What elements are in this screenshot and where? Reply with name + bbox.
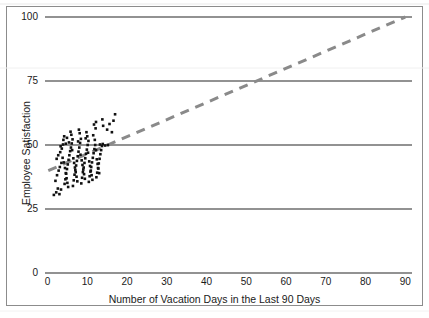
data-point bbox=[63, 183, 66, 186]
data-point bbox=[88, 175, 91, 178]
data-point bbox=[95, 158, 98, 161]
data-point bbox=[64, 142, 67, 145]
x-axis-label: Number of Vacation Days in the Last 90 D… bbox=[0, 293, 429, 305]
data-point bbox=[94, 139, 97, 142]
data-point bbox=[77, 140, 80, 143]
x-tick-label: 20 bbox=[115, 277, 139, 287]
data-point bbox=[62, 143, 65, 146]
data-point bbox=[94, 127, 97, 130]
data-point bbox=[82, 166, 85, 169]
data-point bbox=[65, 172, 68, 175]
x-tick-label: 90 bbox=[393, 277, 417, 287]
x-tick-label: 40 bbox=[195, 277, 219, 287]
data-point bbox=[86, 144, 89, 147]
y-tick-label: 75 bbox=[8, 76, 38, 86]
data-point bbox=[55, 158, 58, 161]
data-point bbox=[87, 140, 90, 143]
data-point bbox=[107, 144, 110, 147]
data-point bbox=[59, 145, 62, 148]
data-point bbox=[55, 191, 58, 194]
data-point bbox=[78, 146, 81, 149]
data-point bbox=[72, 157, 75, 160]
x-tick-label: 50 bbox=[234, 277, 258, 287]
data-point bbox=[96, 171, 99, 174]
data-point bbox=[114, 113, 117, 116]
data-point bbox=[84, 157, 87, 160]
data-point bbox=[84, 177, 87, 180]
y-tick-label: 0 bbox=[8, 268, 38, 278]
data-point bbox=[87, 151, 90, 154]
data-point bbox=[67, 186, 70, 189]
data-point bbox=[60, 162, 63, 165]
data-point bbox=[79, 153, 82, 156]
data-point bbox=[71, 138, 74, 141]
data-point bbox=[70, 133, 73, 136]
data-point bbox=[101, 143, 104, 146]
data-point bbox=[86, 148, 89, 151]
data-point bbox=[59, 151, 62, 154]
data-point bbox=[57, 169, 60, 172]
data-point bbox=[112, 119, 115, 122]
data-point bbox=[99, 153, 102, 156]
data-point bbox=[95, 121, 98, 124]
y-axis-label: Employee Satisfaction bbox=[20, 101, 32, 205]
data-point bbox=[54, 180, 57, 183]
data-point bbox=[69, 130, 72, 133]
data-point bbox=[111, 131, 114, 134]
x-tick-label: 30 bbox=[155, 277, 179, 287]
data-point bbox=[91, 161, 94, 164]
x-tick-label: 10 bbox=[75, 277, 99, 287]
data-point bbox=[73, 173, 76, 176]
data-point bbox=[56, 174, 59, 177]
data-point bbox=[62, 161, 65, 164]
data-point bbox=[61, 147, 64, 150]
data-point bbox=[80, 159, 83, 162]
data-point bbox=[66, 163, 69, 166]
data-point bbox=[70, 142, 73, 145]
data-point bbox=[101, 118, 104, 121]
data-point bbox=[64, 178, 67, 181]
scatter-plot bbox=[0, 0, 429, 318]
y-gridlines bbox=[45, 17, 412, 209]
data-point bbox=[63, 135, 66, 138]
data-point bbox=[92, 152, 95, 155]
data-point bbox=[91, 179, 94, 182]
data-point bbox=[97, 162, 100, 165]
data-point bbox=[68, 154, 71, 157]
data-point bbox=[80, 138, 83, 141]
data-point bbox=[100, 149, 103, 152]
data-point bbox=[72, 179, 75, 182]
data-point bbox=[57, 154, 60, 157]
data-point bbox=[94, 144, 97, 147]
y-tick-label: 100 bbox=[8, 12, 38, 22]
data-point bbox=[72, 185, 75, 188]
y-tick-label: 25 bbox=[8, 204, 38, 214]
data-point bbox=[57, 187, 60, 190]
data-point bbox=[83, 162, 86, 165]
data-point bbox=[106, 128, 109, 131]
data-point bbox=[93, 123, 96, 126]
data-point bbox=[82, 171, 85, 174]
x-tick-label: 60 bbox=[274, 277, 298, 287]
data-point bbox=[77, 150, 80, 153]
data-point bbox=[78, 132, 81, 135]
data-point bbox=[62, 139, 65, 142]
data-point bbox=[74, 169, 77, 172]
x-tick-label: 0 bbox=[36, 277, 60, 287]
data-point bbox=[58, 193, 61, 196]
data-point bbox=[102, 125, 105, 128]
data-point bbox=[84, 137, 87, 140]
data-point bbox=[68, 141, 71, 144]
data-point bbox=[95, 149, 98, 152]
data-point bbox=[88, 160, 91, 163]
data-point bbox=[66, 137, 69, 140]
data-point bbox=[76, 160, 79, 163]
data-point bbox=[73, 162, 76, 165]
data-point bbox=[75, 164, 78, 167]
data-point bbox=[71, 149, 74, 152]
data-point bbox=[98, 158, 101, 161]
data-point bbox=[104, 144, 107, 147]
data-point bbox=[85, 131, 88, 134]
data-point bbox=[66, 182, 69, 185]
data-point bbox=[95, 176, 98, 179]
